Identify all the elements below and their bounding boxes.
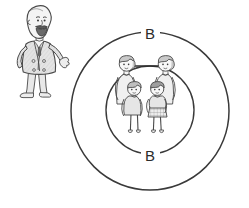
child-left-eye-right <box>135 89 137 91</box>
man-tie <box>38 47 41 57</box>
child-right-body <box>149 96 166 108</box>
man-eye-right <box>44 19 46 21</box>
adult-left-eye-left <box>123 64 125 66</box>
child-left-leg-left <box>130 114 131 130</box>
child-right-eye-right <box>158 89 160 91</box>
man-eye-left <box>37 19 39 21</box>
man-button-lower-left <box>33 69 36 72</box>
man-button-upper-left <box>32 60 35 63</box>
adult-left-eye-right <box>128 64 130 66</box>
child-right-shoe-right <box>160 130 164 133</box>
adult-right-eye-right <box>167 64 169 66</box>
child-left-body <box>124 96 141 115</box>
child-left-leg-right <box>137 114 138 130</box>
man-button-lower-right <box>43 69 46 72</box>
child-left-shoe-left <box>128 130 132 133</box>
diagram-svg: B B <box>0 0 249 208</box>
adult-right-eye-left <box>162 64 164 66</box>
illustration-canvas: B B <box>0 0 249 208</box>
child-right-leg-left <box>153 116 154 130</box>
child-left-shoe-right <box>136 130 140 133</box>
inner-boundary-label: B <box>145 147 155 164</box>
child-right-shoe-left <box>151 130 155 133</box>
man-button-upper-right <box>43 60 46 63</box>
outer-boundary-label: B <box>145 25 155 42</box>
man-right-shoe <box>39 93 50 98</box>
child-left-eye-left <box>131 89 133 91</box>
man-left-shoe <box>20 93 34 98</box>
child-right-eye-left <box>154 89 156 91</box>
